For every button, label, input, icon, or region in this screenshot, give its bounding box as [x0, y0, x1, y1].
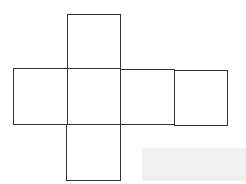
face-bottom: [66, 124, 121, 181]
face-center: [67, 68, 121, 125]
face-top: [67, 14, 121, 69]
face-right: [120, 69, 175, 125]
face-far-right: [174, 70, 228, 126]
face-left: [13, 68, 68, 125]
shaded-region: [142, 148, 246, 181]
